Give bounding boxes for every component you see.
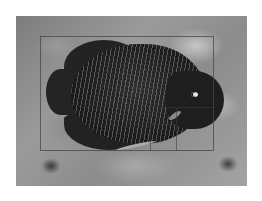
- guide-line-vertical-2: [176, 107, 177, 151]
- guide-line-vertical-1: [150, 107, 151, 151]
- guide-line-horizontal-1: [150, 107, 214, 108]
- crop-frame[interactable]: [40, 36, 214, 151]
- guide-line-horizontal-2: [150, 124, 176, 125]
